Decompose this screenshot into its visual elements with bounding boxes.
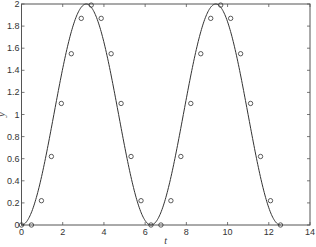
data-point [129, 154, 133, 158]
data-point [99, 16, 103, 20]
y-tick-label: 1.4 [7, 65, 20, 75]
plot-frame [22, 4, 311, 225]
data-point [79, 16, 83, 20]
curve-line [22, 4, 281, 225]
x-tick-label: 10 [223, 227, 233, 237]
x-axis-ticks: 02468101214 [19, 4, 315, 237]
y-tick-label: 0.2 [7, 198, 20, 208]
y-tick-label: 0.6 [7, 154, 20, 164]
data-point [119, 101, 123, 105]
data-point [199, 52, 203, 56]
series-curve [22, 4, 281, 225]
x-tick-label: 2 [60, 227, 65, 237]
y-tick-label: 0 [14, 220, 19, 230]
y-tick-label: 1.2 [7, 87, 20, 97]
y-tick-label: 0.4 [7, 176, 20, 186]
x-tick-label: 6 [143, 227, 148, 237]
data-point [258, 154, 262, 158]
data-point [228, 16, 232, 20]
data-point [209, 16, 213, 20]
data-point [248, 101, 252, 105]
data-point [189, 101, 193, 105]
data-point [69, 52, 73, 56]
data-point [39, 198, 43, 202]
y-tick-label: 1.6 [7, 43, 20, 53]
y-tick-label: 0.8 [7, 132, 20, 142]
plot-box [22, 4, 311, 225]
x-tick-label: 14 [305, 227, 315, 237]
data-point [268, 198, 272, 202]
y-tick-label: 2 [14, 0, 19, 9]
series-markers [19, 3, 282, 227]
data-point [59, 101, 63, 105]
data-point [179, 154, 183, 158]
y-tick-label: 1 [14, 110, 19, 120]
data-point [238, 52, 242, 56]
x-tick-label: 0 [19, 227, 24, 237]
data-point [169, 198, 173, 202]
data-point [139, 198, 143, 202]
chart: 02468101214 00.20.40.60.811.21.41.61.82 … [0, 0, 316, 247]
x-tick-label: 4 [101, 227, 106, 237]
y-axis-label: y [0, 112, 7, 118]
x-tick-label: 12 [264, 227, 274, 237]
y-tick-label: 1.8 [7, 21, 20, 31]
x-tick-label: 8 [184, 227, 189, 237]
x-axis-label: t [164, 235, 167, 246]
data-point [109, 52, 113, 56]
data-point [49, 154, 53, 158]
